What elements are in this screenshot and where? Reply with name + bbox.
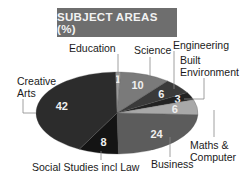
slice-value-label: 6 bbox=[172, 103, 178, 115]
label-science: Science bbox=[134, 44, 171, 56]
label-maths-computer-1: Maths & bbox=[190, 139, 229, 151]
leader-line bbox=[23, 99, 36, 113]
label-business: Business bbox=[151, 158, 194, 170]
label-built-environment-1: Built bbox=[180, 54, 200, 66]
label-engineering: Engineering bbox=[173, 39, 229, 51]
label-social-studies: Social Studies incl Law bbox=[32, 161, 139, 173]
slice-value-label: 8 bbox=[100, 136, 106, 148]
label-built-environment-2: Environment bbox=[180, 66, 239, 78]
label-creative-arts-2: Arts bbox=[17, 87, 36, 99]
slice-value-label: 42 bbox=[56, 100, 68, 112]
slice-value-label: 24 bbox=[150, 128, 163, 140]
slice-value-label: 10 bbox=[131, 79, 143, 91]
label-education: Education bbox=[69, 42, 116, 54]
slice-value-label: 6 bbox=[158, 88, 164, 100]
label-maths-computer-2: Computer bbox=[190, 151, 236, 163]
label-creative-arts-1: Creative bbox=[17, 75, 56, 87]
